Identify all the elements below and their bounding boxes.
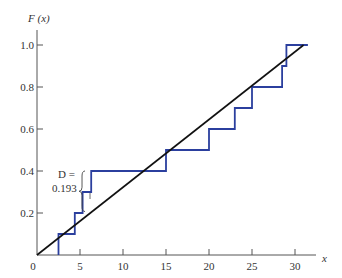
d-value: 0.193 [52, 182, 77, 194]
ks-test-chart: 0510152025300.20.40.60.81.0 F (x) x D = … [0, 0, 342, 278]
x-tick-label: 20 [204, 260, 216, 272]
x-tick-label: 30 [290, 260, 302, 272]
y-tick-label: 0.2 [20, 207, 34, 219]
series [37, 45, 308, 255]
x-tick-label: 0 [30, 260, 36, 272]
y-tick-label: 0.6 [20, 123, 34, 135]
y-tick-label: 0.4 [20, 165, 34, 177]
y-tick-label: 0.8 [20, 81, 34, 93]
hypothesized-cdf-line [37, 45, 304, 255]
y-tick-label: 1.0 [20, 39, 34, 51]
x-tick-label: 10 [118, 260, 130, 272]
x-axis-title: x [321, 252, 327, 264]
ticks: 0510152025300.20.40.60.81.0 [20, 39, 301, 272]
empirical-cdf-step [59, 45, 308, 255]
x-tick-label: 15 [161, 260, 173, 272]
d-label: D = [58, 168, 75, 180]
x-tick-label: 5 [77, 260, 83, 272]
annotations: F (x) x D = 0.193 [27, 12, 327, 264]
y-axis-title: F (x) [27, 12, 50, 25]
x-tick-label: 25 [247, 260, 259, 272]
